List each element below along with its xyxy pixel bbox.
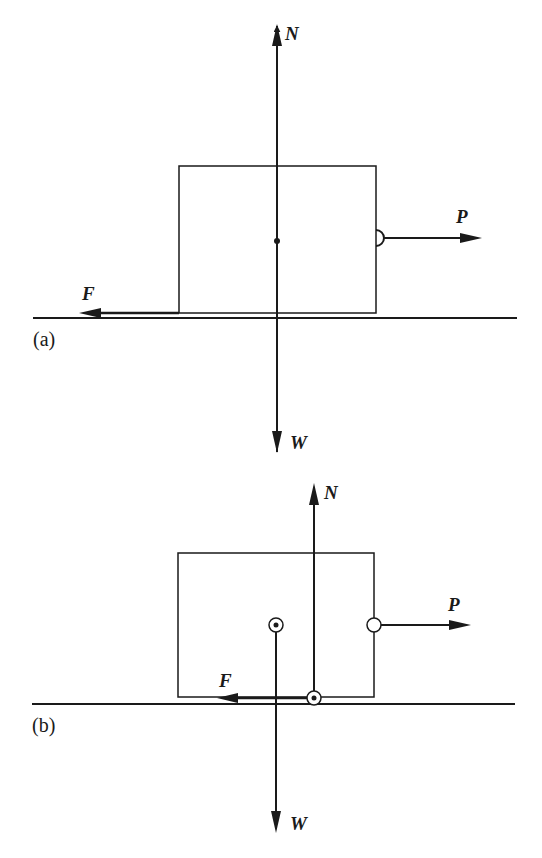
arrowhead-up-icon (309, 483, 319, 505)
label-p-b: P (447, 594, 460, 615)
arrowhead-down-icon (272, 431, 282, 453)
label-p-a: P (455, 206, 468, 227)
center-of-mass-dot-b (274, 623, 279, 628)
label-n-a: N (284, 23, 300, 44)
caption-b: (b) (32, 714, 55, 737)
arrowhead-right-icon (460, 233, 482, 243)
caption-a: (a) (33, 328, 55, 351)
push-point-marker-b (367, 618, 381, 632)
center-of-mass-dot-a (274, 238, 280, 244)
contact-semicircle-icon (376, 230, 384, 246)
label-w-b: W (290, 813, 308, 834)
panel-b: N P F W (b) (32, 482, 515, 834)
label-w-a: W (290, 432, 308, 453)
free-body-diagrams: N P F W (a) N P F W (b) (0, 0, 542, 858)
arrowhead-left-icon (79, 308, 101, 318)
label-f-a: F (81, 283, 95, 304)
contact-point-dot-b (312, 696, 317, 701)
arrowhead-down-icon (271, 811, 281, 833)
panel-a: N P F W (a) (33, 23, 517, 453)
label-f-b: F (218, 670, 232, 691)
arrowhead-right-icon (449, 620, 471, 630)
arrowhead-left-icon (217, 693, 238, 703)
arrowhead-up-icon (272, 24, 282, 46)
label-n-b: N (323, 482, 339, 503)
